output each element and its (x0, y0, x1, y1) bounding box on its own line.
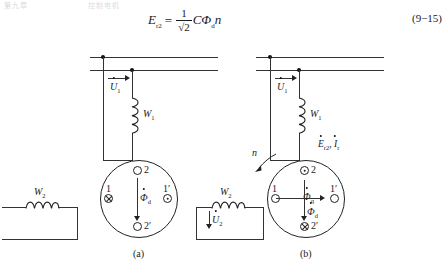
panel-a-excitation-coil (126, 97, 140, 134)
panel-a-excitation-coil-label: W1 (143, 108, 155, 121)
panel-b-rotation-label: n (252, 147, 257, 158)
phasor-dot-icon (112, 77, 114, 79)
panel-b-voltage-label: U1 (277, 81, 287, 94)
phasor-dot-icon (214, 210, 216, 212)
panel-b-output-coil (211, 199, 246, 211)
panel-b-caption: (b) (300, 248, 312, 259)
panel-a-output-wire-left (2, 207, 26, 208)
panel-a-flux-arrow-head (134, 216, 140, 221)
panel-b-excitation-coil-label: W1 (310, 108, 322, 121)
panel-b-flux-d-arrow-shaft (304, 180, 305, 218)
panel-a-slot-top (133, 166, 142, 175)
panel-a-slot-left-label: 1 (106, 183, 111, 194)
panel-a-supply-rail-bottom (90, 70, 218, 71)
panel-b-flux-d-label: Φd (307, 206, 318, 219)
textbook-page: 第九章 控制电机 Er2 = 1 √2 CΦdn (9−15) U1 W1 (0, 0, 448, 269)
panel-b-output-wire-right (244, 207, 264, 208)
display-equation: Er2 = 1 √2 CΦdn (148, 8, 221, 33)
panel-b-slot-left-label: 1 (272, 183, 277, 194)
panel-a-output-loop-right (77, 207, 78, 239)
panel-b-output-coil-label: W2 (220, 186, 232, 199)
panel-b-emf-current-label: Er2, Ir (318, 139, 339, 151)
panel-b-left-lead (270, 57, 271, 160)
equation-fraction: 1 √2 (176, 8, 192, 33)
panel-b-slot-top (300, 166, 309, 175)
equation-number: (9−15) (412, 12, 442, 24)
panel-a-caption: (a) (133, 248, 144, 259)
panel-b-output-loop-left (196, 207, 197, 239)
panel-a-output-loop-bottom (2, 239, 78, 240)
panel-a-flux-label: Φd (140, 192, 151, 205)
panel-a-voltage-label: U1 (110, 81, 120, 94)
panel-b-slot-right-label: 1′ (330, 183, 337, 194)
panel-b-right-lead-upper (299, 70, 300, 98)
phasor-dot-icon (334, 135, 336, 137)
panel-a-left-lead (103, 57, 104, 160)
panel-a-right-lead-upper (132, 70, 133, 98)
fraction-numerator: 1 (179, 8, 189, 20)
running-header-right: 控制电机 (88, 0, 120, 10)
panel-b-right-lead-lower (299, 133, 300, 160)
panel-a-slot-right (163, 194, 172, 203)
panel-b-voltage-arrow-head (292, 75, 297, 81)
panel-b-slot-bottom (300, 222, 309, 231)
panel-b-slot-bottom-label: 2′ (311, 220, 318, 231)
equation-rhs: CΦdn (193, 12, 222, 30)
panel-a-supply-rail-top (90, 57, 218, 58)
equation-lhs: Er2 (148, 12, 162, 30)
panel-a-flux-arrow-shaft (137, 178, 138, 218)
panel-a-slot-right-label: 1′ (163, 183, 170, 194)
phasor-dot-icon (310, 202, 312, 204)
panel-b-output-loop-right (263, 207, 264, 239)
panel-a-voltage-arrow-head (125, 75, 130, 81)
panel-b-flux-q-arrow-shaft (276, 198, 321, 199)
panel-b-voltage-arrow-shaft (275, 78, 293, 79)
fraction-denominator: √2 (176, 21, 192, 33)
panel-b-supply-rail-top (256, 57, 384, 58)
equation-equals: = (165, 13, 172, 29)
panel-b-flux-q-arrow-head (320, 195, 325, 201)
phasor-dot-icon (143, 188, 145, 190)
panel-b-output-loop-bottom (196, 239, 264, 240)
panel-a-slot-top-label: 2 (144, 164, 149, 175)
phasor-dot-icon (320, 135, 322, 137)
panel-b-excitation-coil (293, 97, 307, 134)
panel-a-right-lead-lower (132, 133, 133, 160)
panel-a-output-coil-label: W2 (34, 186, 46, 199)
panel-b-slot-top-label: 2 (311, 164, 316, 175)
phasor-dot-icon (306, 187, 308, 189)
panel-a-slot-left (104, 194, 113, 203)
panel-a-output-coil (25, 199, 60, 211)
running-header-left: 第九章 (4, 0, 28, 10)
panel-b-slot-right (330, 194, 339, 203)
panel-b-supply-rail-bottom (256, 70, 384, 71)
panel-a-slot-bottom (133, 222, 142, 231)
panel-a-output-wire-right (58, 207, 78, 208)
panel-b-output-voltage-label: U2 (212, 214, 222, 227)
panel-a-slot-bottom-label: 2′ (144, 220, 151, 231)
phasor-dot-icon (279, 77, 281, 79)
panel-b-output-wire-left (196, 207, 212, 208)
panel-a-voltage-arrow-shaft (108, 78, 126, 79)
